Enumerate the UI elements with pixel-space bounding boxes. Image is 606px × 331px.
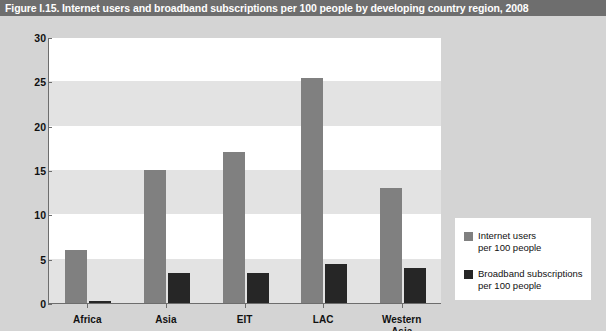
bar-lac-series-1 (325, 264, 347, 303)
legend-label: Broadband subscriptions per 100 people (478, 268, 598, 291)
y-tick-label: 5 (4, 254, 46, 266)
plot-band (49, 81, 441, 125)
bar-eit-series-1 (247, 273, 269, 303)
y-tick-mark (48, 260, 52, 261)
x-tick-label: LAC (313, 314, 334, 326)
bar-asia-series-0 (144, 170, 166, 303)
chart-legend: Internet users per 100 peopleBroadband s… (455, 218, 591, 300)
x-tick-mark (245, 304, 246, 308)
bar-western-asia-series-1 (404, 268, 426, 303)
bar-asia-series-1 (168, 273, 190, 303)
bar-africa-series-0 (65, 250, 87, 303)
y-tick-label: 10 (4, 209, 46, 221)
figure-container: Figure I.15. Internet users and broadban… (0, 0, 606, 331)
y-tick-label: 25 (4, 76, 46, 88)
y-tick-mark (48, 215, 52, 216)
bar-africa-series-1 (89, 301, 111, 303)
x-tick-mark (402, 304, 403, 308)
y-tick-mark (48, 304, 52, 305)
bar-western-asia-series-0 (380, 188, 402, 303)
y-axis: 051015202530 (0, 38, 46, 304)
y-tick-mark (48, 38, 52, 39)
x-tick-label: Asia (155, 314, 176, 326)
figure-title: Figure I.15. Internet users and broadban… (5, 1, 528, 15)
figure-title-bar: Figure I.15. Internet users and broadban… (0, 0, 606, 16)
y-tick-mark (48, 82, 52, 83)
y-tick-mark (48, 127, 52, 128)
x-tick-label: Africa (73, 314, 101, 326)
legend-swatch-icon (464, 232, 473, 241)
x-axis: AfricaAsiaEITLACWestern Asia (48, 308, 441, 331)
chart-area: 051015202530 AfricaAsiaEITLACWestern Asi… (0, 16, 606, 331)
x-tick-mark (323, 304, 324, 308)
x-tick-mark (87, 304, 88, 308)
y-tick-label: 0 (4, 298, 46, 310)
y-tick-label: 20 (4, 121, 46, 133)
x-tick-mark (166, 304, 167, 308)
x-tick-label: Western Asia (382, 314, 421, 331)
legend-label: Internet users per 100 people (478, 230, 598, 253)
y-tick-mark (48, 171, 52, 172)
x-tick-label: EIT (237, 314, 253, 326)
legend-swatch-icon (464, 270, 473, 279)
y-tick-label: 15 (4, 165, 46, 177)
bar-lac-series-0 (301, 78, 323, 303)
plot-area (48, 38, 441, 304)
y-tick-label: 30 (4, 32, 46, 44)
bar-eit-series-0 (223, 152, 245, 303)
